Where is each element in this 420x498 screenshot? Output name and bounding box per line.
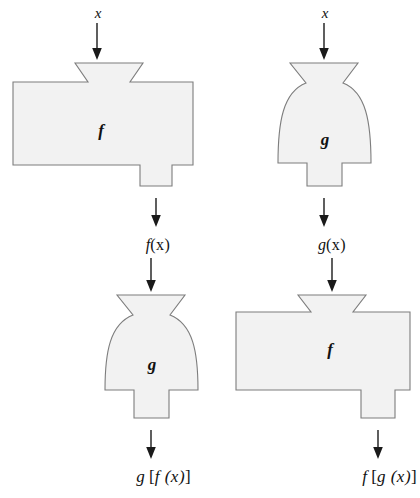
input-label-left: x xyxy=(95,6,102,21)
fgx-inner-expr: g (x) xyxy=(377,467,411,486)
gx-function: g xyxy=(318,236,326,253)
output-label-f-of-gx: f [g (x)] xyxy=(345,451,416,498)
gfx-open-bracket: [ xyxy=(145,467,155,486)
diagram-canvas xyxy=(0,0,420,498)
intermediate-label-fx: f(x) xyxy=(130,221,171,269)
arrow-x-to-g-top-right xyxy=(319,23,329,60)
fx-argument: (x) xyxy=(150,236,170,253)
machine-label-f-bottom-right: f xyxy=(327,341,333,358)
fgx-open-bracket: [ xyxy=(367,467,377,486)
machine-f-bottom-right xyxy=(236,295,410,418)
gfx-close-bracket: ] xyxy=(185,467,191,486)
arrow-x-to-f-top-left xyxy=(92,23,102,60)
machine-label-g-bottom-left: g xyxy=(148,356,157,373)
function-composition-diagram: x x f g g f f(x) g(x) g [f (x)] f [g (x)… xyxy=(0,0,420,498)
machine-label-g-top-right: g xyxy=(321,131,330,148)
gfx-outer-function: g xyxy=(136,467,145,486)
gfx-inner-expr: f (x) xyxy=(155,467,185,486)
machine-label-f-top-left: f xyxy=(98,122,104,139)
input-label-right: x xyxy=(322,6,329,21)
machine-g-top-right xyxy=(278,63,371,186)
intermediate-label-gx: g(x) xyxy=(302,221,346,269)
output-label-g-of-fx: g [f (x)] xyxy=(119,451,190,498)
fgx-close-bracket: ] xyxy=(411,467,417,486)
gx-argument: (x) xyxy=(326,236,346,253)
